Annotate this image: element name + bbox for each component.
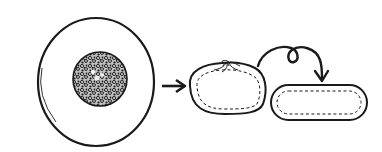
looped-arrow-icon: [258, 47, 328, 81]
step-3-flattened-bun: [271, 85, 367, 120]
step-1-wrapper-with-filling: [38, 18, 154, 146]
diagram-canvas: Step illustration: filling ball placed o…: [0, 0, 382, 152]
oval-inner-dashed: [277, 91, 361, 114]
step-2-pleated-bun: [190, 60, 266, 114]
illustration: [0, 0, 382, 152]
arrow-right-icon: [162, 80, 185, 92]
bun-inner-dashed: [197, 70, 260, 109]
wrapper-highlight-icon: [41, 68, 56, 122]
oval-outline: [271, 85, 367, 120]
